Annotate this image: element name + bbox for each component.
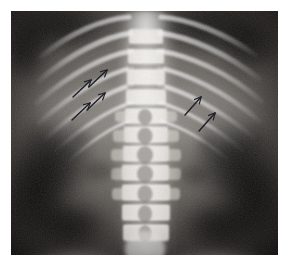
film-grain [11,11,278,255]
radiograph-canvas [11,11,278,255]
page-root [0,0,290,268]
radiograph-image [11,11,278,255]
